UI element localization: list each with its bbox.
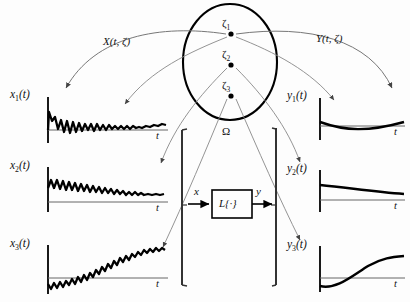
time-axis-label-y1: t [394,127,397,138]
output-process-label: Y(t, ζ) [316,33,342,44]
arc-zeta2-to-y2 [236,68,300,162]
outcome-label-zeta3: ζ3 [222,80,230,94]
x2-waveform [48,180,164,195]
output-bracket-top-serif [272,128,276,129]
system-output-label: y [256,186,261,197]
outcome-label-zeta1: ζ1 [222,18,230,32]
time-axis-label-y3: t [394,279,397,290]
time-axis-label-x3: t [156,279,159,290]
time-axis-label-x2: t [156,203,159,214]
sample-space-label: Ω [222,126,230,137]
signal-label-y1: y1(t) [287,90,307,104]
x3-waveform [48,248,165,289]
arc-zeta2-to-x2 [161,68,227,163]
output-bracket-bottom-serif [272,285,276,286]
y2-waveform [320,185,404,194]
signal-label-x2: x2(t) [10,160,30,174]
mapping-arc-input-process [66,31,226,88]
figure-canvas: ζ1 ζ2 ζ3 Ω X(t, ζ) Y(t, ζ) x1(t) x2(t) x… [0,0,410,302]
system-block-label: L{·} [219,198,237,209]
arc-zeta3-to-x3 [163,99,227,247]
arc-zeta1-to-y1 [236,37,334,100]
time-axis-label-x1: t [156,131,159,142]
signal-label-x1: x1(t) [10,89,30,103]
outcome-label-zeta2: ζ2 [222,49,230,63]
signal-label-x3: x3(t) [10,238,30,252]
system-input-label: x [194,186,199,197]
input-bracket-top-serif [182,129,187,130]
input-bracket-bottom-serif [182,285,187,286]
time-axis-label-y2: t [394,201,397,212]
figure-vector-layer [0,0,410,302]
y3-waveform [320,256,404,287]
signal-label-y2: y2(t) [287,163,307,177]
signal-label-y3: y3(t) [287,239,307,253]
arc-zeta1-to-x1 [125,37,227,104]
input-process-label: X(t, ζ) [103,36,130,47]
